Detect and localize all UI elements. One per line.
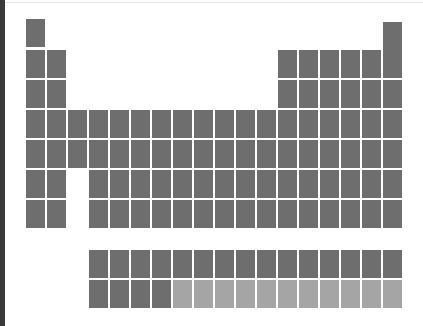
element-cell	[362, 80, 381, 108]
element-cell	[47, 170, 66, 198]
element-cell	[110, 200, 129, 228]
element-cell	[341, 80, 360, 108]
element-cell	[26, 140, 45, 168]
element-cell	[215, 170, 234, 198]
element-cell	[362, 170, 381, 198]
element-cell	[152, 140, 171, 168]
element-cell	[110, 140, 129, 168]
element-cell	[299, 140, 318, 168]
element-cell	[383, 50, 402, 78]
element-cell	[320, 50, 339, 78]
element-cell	[47, 200, 66, 228]
f-block-cell	[236, 280, 255, 308]
f-block-cell	[152, 280, 171, 308]
element-cell	[320, 200, 339, 228]
element-cell	[89, 110, 108, 138]
element-cell	[341, 170, 360, 198]
element-cell	[236, 140, 255, 168]
f-block-cell	[383, 280, 402, 308]
f-block-cell	[362, 250, 381, 278]
element-cell	[215, 110, 234, 138]
f-block-cell	[278, 250, 297, 278]
f-block-cell	[110, 250, 129, 278]
f-block-cell	[299, 250, 318, 278]
f-block-cell	[362, 280, 381, 308]
element-cell	[299, 50, 318, 78]
f-block-cell	[131, 280, 150, 308]
element-cell	[278, 110, 297, 138]
element-cell	[47, 140, 66, 168]
element-cell	[194, 170, 213, 198]
element-cell	[383, 170, 402, 198]
f-block-cell	[131, 250, 150, 278]
element-cell	[68, 140, 87, 168]
f-block-cell	[89, 250, 108, 278]
element-cell	[362, 50, 381, 78]
window-left-border	[0, 0, 5, 326]
f-block-cell	[341, 280, 360, 308]
element-cell	[236, 170, 255, 198]
f-block-cell	[173, 250, 192, 278]
element-cell	[26, 200, 45, 228]
element-cell	[236, 200, 255, 228]
element-cell	[341, 50, 360, 78]
element-cell	[26, 170, 45, 198]
element-cell	[215, 140, 234, 168]
element-cell	[236, 110, 255, 138]
element-cell	[299, 170, 318, 198]
element-cell	[383, 80, 402, 108]
element-cell	[215, 200, 234, 228]
f-block-cell	[278, 280, 297, 308]
element-cell	[89, 140, 108, 168]
element-cell	[194, 200, 213, 228]
element-cell	[383, 140, 402, 168]
element-cell	[278, 80, 297, 108]
element-cell	[257, 200, 276, 228]
element-cell	[131, 140, 150, 168]
f-block-cell	[257, 250, 276, 278]
element-cell	[110, 170, 129, 198]
element-cell	[320, 140, 339, 168]
element-cell	[131, 200, 150, 228]
element-cell	[131, 110, 150, 138]
element-cell	[341, 110, 360, 138]
f-block-cell	[194, 280, 213, 308]
element-cell	[173, 170, 192, 198]
f-block-cell	[215, 250, 234, 278]
top-divider	[5, 2, 423, 3]
f-block-cell	[194, 250, 213, 278]
element-cell	[278, 140, 297, 168]
f-block-cell	[257, 280, 276, 308]
f-block-cell	[173, 280, 192, 308]
element-cell	[152, 170, 171, 198]
element-cell	[131, 170, 150, 198]
element-cell	[320, 110, 339, 138]
element-cell	[152, 200, 171, 228]
element-cell	[278, 200, 297, 228]
element-cell	[320, 80, 339, 108]
element-cell	[173, 140, 192, 168]
f-block-cell	[383, 250, 402, 278]
f-block-cell	[110, 280, 129, 308]
element-cell	[194, 140, 213, 168]
element-cell	[278, 50, 297, 78]
element-cell	[299, 80, 318, 108]
element-cell	[26, 80, 45, 108]
element-cell	[194, 110, 213, 138]
element-cell	[89, 170, 108, 198]
f-block-cell	[89, 280, 108, 308]
element-cell	[278, 170, 297, 198]
element-cell	[320, 170, 339, 198]
element-cell	[68, 110, 87, 138]
element-cell	[47, 50, 66, 78]
element-cell	[362, 140, 381, 168]
f-block-cell	[341, 250, 360, 278]
f-block-cell	[320, 250, 339, 278]
element-cell	[26, 110, 45, 138]
element-cell	[362, 200, 381, 228]
element-cell	[383, 200, 402, 228]
element-cell	[257, 170, 276, 198]
element-cell	[362, 110, 381, 138]
f-block-cell	[299, 280, 318, 308]
element-cell	[383, 22, 402, 50]
